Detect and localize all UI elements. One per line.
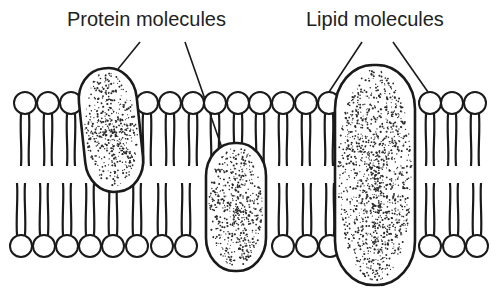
lipid-head <box>204 92 226 114</box>
lipid-tail <box>434 183 435 235</box>
lipid-tail <box>197 114 198 166</box>
leader-line <box>118 42 140 69</box>
lipid-tail <box>182 183 183 235</box>
lipid-tail <box>426 114 427 166</box>
lipid-tail <box>133 183 134 235</box>
lipid-tail <box>264 114 265 166</box>
lipid-head <box>227 92 249 114</box>
lipid-tail <box>426 183 427 235</box>
lipid-tail <box>75 114 76 166</box>
lipid-head <box>249 92 271 114</box>
lipid-head <box>272 92 294 114</box>
lipid-head <box>37 92 59 114</box>
lipid-tail <box>333 114 334 166</box>
lipid-tail <box>473 183 474 235</box>
lipid-head <box>443 235 465 257</box>
lipid-tail <box>479 114 480 166</box>
lipid-tail <box>434 114 435 166</box>
lipid-head <box>159 92 181 114</box>
lipid-tail <box>302 114 303 166</box>
lipid-head <box>295 92 317 114</box>
lipid-head <box>126 235 148 257</box>
lipid-tail <box>450 183 451 235</box>
protein-2 <box>206 143 266 271</box>
lipid-tail <box>287 183 288 235</box>
lipid-tail <box>325 114 326 166</box>
lipid-tail <box>471 114 472 166</box>
lipid-tail <box>279 183 280 235</box>
lipid-tail <box>458 183 459 235</box>
lipid-head <box>419 92 441 114</box>
lipid-tail <box>44 114 45 166</box>
lipid-head <box>102 235 124 257</box>
lipid-head <box>464 92 486 114</box>
lipid-tail <box>141 183 142 235</box>
lipid-head <box>441 92 463 114</box>
lipid-tail <box>303 183 304 235</box>
lipid-tail <box>189 114 190 166</box>
lipid-tail <box>174 114 175 166</box>
lipid-tail <box>158 183 159 235</box>
lipid-tail <box>279 114 280 166</box>
lipid-tail <box>25 183 26 235</box>
lipid-tail <box>40 183 41 235</box>
lipid-tail <box>94 183 95 235</box>
lipid-tail <box>151 114 152 166</box>
lipid-head <box>272 235 294 257</box>
lipid-tail <box>166 114 167 166</box>
lipid-tail <box>456 114 457 166</box>
lipid-tail <box>29 114 30 166</box>
lipid-tail <box>63 183 64 235</box>
lipid-tail <box>310 114 311 166</box>
membrane-diagram <box>0 0 496 293</box>
lipid-tail <box>287 114 288 166</box>
lipid-head <box>10 235 32 257</box>
lipid-tail <box>326 183 327 235</box>
lipid-head <box>419 235 441 257</box>
lipid-tail <box>311 183 312 235</box>
lipid-head <box>33 235 55 257</box>
lipid-head <box>466 235 488 257</box>
lipid-head <box>79 235 101 257</box>
lipid-head <box>182 92 204 114</box>
lipid-tail <box>481 183 482 235</box>
lipid-tail <box>21 114 22 166</box>
protein-3 <box>335 65 415 285</box>
lipid-tail <box>52 114 53 166</box>
protein-1 <box>76 65 147 194</box>
lipid-tail <box>71 183 72 235</box>
lipid-head <box>151 235 173 257</box>
lipid-tail <box>166 183 167 235</box>
lipid-tail <box>448 114 449 166</box>
lipid-tail <box>48 183 49 235</box>
lipid-tail <box>17 183 18 235</box>
lipid-tail <box>190 183 191 235</box>
lipid-tail <box>86 183 87 235</box>
lipid-head <box>14 92 36 114</box>
lipid-head <box>296 235 318 257</box>
lipid-head <box>175 235 197 257</box>
lipid-head <box>56 235 78 257</box>
lipid-tail <box>67 114 68 166</box>
